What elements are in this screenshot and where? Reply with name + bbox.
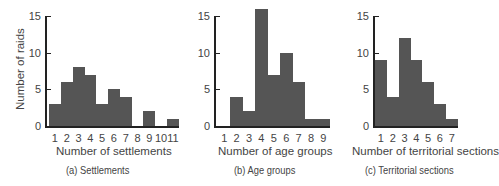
- y-tick-label: 15: [349, 10, 369, 22]
- x-axis: [45, 126, 179, 128]
- histogram-bar: [96, 104, 108, 126]
- y-tick: [46, 53, 51, 54]
- histogram-bar: [61, 82, 73, 126]
- histogram-bar: [230, 97, 243, 126]
- x-tick-label: 7: [444, 132, 460, 144]
- histogram-bar: [108, 89, 120, 126]
- histogram-bar: [280, 53, 293, 126]
- y-axis: [214, 16, 216, 127]
- histogram-bar: [399, 38, 411, 126]
- histogram-bar: [73, 67, 85, 126]
- y-tick: [374, 16, 379, 17]
- histogram-bar: [167, 119, 179, 126]
- histogram-bar: [375, 60, 387, 126]
- y-tick-label: 15: [190, 10, 210, 22]
- histogram-bar: [120, 97, 132, 126]
- x-tick-label: 9: [315, 132, 331, 144]
- y-tick-label: 15: [21, 10, 41, 22]
- y-tick: [46, 89, 51, 90]
- y-tick-label: 10: [349, 47, 369, 59]
- y-tick-label: 0: [349, 120, 369, 132]
- x-axis-label: Number of settlements: [56, 145, 172, 158]
- y-tick: [46, 16, 51, 17]
- x-axis-label: Number of age groups: [218, 145, 332, 158]
- y-tick: [215, 53, 220, 54]
- histogram-bar: [255, 9, 268, 126]
- panel-caption: (a) Settlements: [66, 164, 129, 177]
- histogram-bar: [243, 111, 256, 126]
- y-tick-label: 0: [21, 120, 41, 132]
- y-tick: [215, 16, 220, 17]
- y-tick: [215, 89, 220, 90]
- y-tick-label: 5: [349, 83, 369, 95]
- x-axis: [214, 126, 330, 128]
- histogram-bar: [422, 82, 434, 126]
- histogram-bar: [84, 75, 96, 126]
- histogram-bar: [446, 119, 458, 126]
- x-axis: [373, 126, 458, 128]
- histogram-bar: [292, 82, 305, 126]
- y-axis: [45, 16, 47, 127]
- histogram-bar: [268, 75, 281, 126]
- y-tick-label: 10: [190, 47, 210, 59]
- histogram-bar: [387, 97, 399, 126]
- x-axis-label: Number of territorial sections: [352, 145, 499, 158]
- histogram-bar: [434, 104, 446, 126]
- y-tick-label: 5: [190, 83, 210, 95]
- y-tick: [374, 53, 379, 54]
- histogram-bar: [49, 104, 61, 126]
- histogram-bar: [305, 119, 318, 126]
- x-tick-label: 11: [165, 132, 181, 144]
- y-tick-label: 0: [190, 120, 210, 132]
- histogram-bar: [143, 111, 155, 126]
- panel-caption: (c) Territorial sections: [365, 164, 454, 177]
- histogram-bar: [317, 119, 330, 126]
- y-axis-label: Number of raids: [14, 28, 27, 110]
- panel-caption: (b) Age groups: [234, 164, 295, 177]
- histogram-bar: [410, 60, 422, 126]
